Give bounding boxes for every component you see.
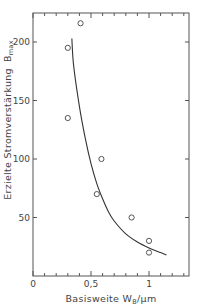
fit-curve-path xyxy=(72,38,167,254)
plot-border xyxy=(33,13,189,276)
data-point-marker xyxy=(65,45,70,50)
data-point-marker xyxy=(146,250,151,255)
y-tick-label: 200 xyxy=(13,37,30,47)
x-tick-label: 0,5 xyxy=(84,279,98,289)
fit-curve xyxy=(72,38,167,254)
data-point-marker xyxy=(65,115,70,120)
data-point-marker xyxy=(94,192,99,197)
data-points xyxy=(65,21,151,256)
x-tick-label: 1 xyxy=(146,279,152,289)
data-point-marker xyxy=(129,215,134,220)
data-point-marker xyxy=(146,238,151,243)
plot-frame xyxy=(33,13,189,276)
data-point-marker xyxy=(99,156,104,161)
x-tick-label: 0 xyxy=(30,279,36,289)
data-point-marker xyxy=(78,21,83,26)
x-axis-label: Basisweite WB/µm xyxy=(66,293,157,306)
y-axis-label: Erzielte StromverstärkungBmax xyxy=(2,40,15,200)
y-tick-label: 50 xyxy=(19,213,31,223)
chart-canvas: 00,51 50100150200 Basisweite WB/µm Erzie… xyxy=(0,0,198,308)
x-axis-ticks: 00,51 xyxy=(30,13,184,289)
y-tick-label: 150 xyxy=(13,96,30,106)
y-tick-label: 100 xyxy=(13,154,30,164)
